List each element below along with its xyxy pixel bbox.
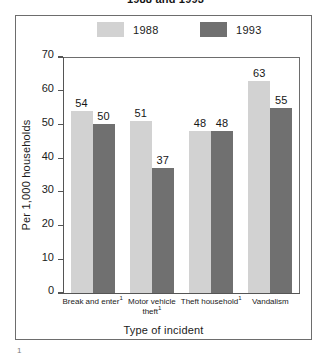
bar-value-label: 48 [194,117,207,129]
bar-group: 5450 [71,57,115,293]
legend-item-1993: 1993 [200,22,262,37]
bar[interactable]: 55 [270,108,292,293]
x-axis-title: Type of incident [15,324,312,336]
bar-value-label: 54 [75,97,88,109]
footnote-marker: 1 [17,346,21,355]
chart-legend: 1988 1993 [15,22,312,44]
x-axis-category-label: Motor vehicle theft1 [118,297,185,317]
legend-item-1988: 1988 [97,22,159,37]
bar[interactable]: 50 [93,124,115,293]
legend-label-1993: 1993 [236,24,262,36]
chart-title: 1988 and 1993 [0,0,331,7]
y-axis-tick-label: 0 [48,284,54,296]
bar-value-label: 63 [253,67,266,79]
y-axis-tick-label: 30 [42,183,54,195]
y-axis-tick: 0 [58,292,63,293]
bar[interactable]: 63 [248,81,270,293]
bar-group: 6355 [248,57,292,293]
legend-label-1988: 1988 [133,24,159,36]
bar-value-label: 51 [135,107,148,119]
y-axis-tick: 40 [58,158,63,159]
y-axis-tick-label: 60 [42,82,54,94]
legend-swatch-1988 [97,22,124,37]
bar[interactable]: 51 [130,121,152,293]
y-axis-tick: 70 [58,56,63,57]
y-axis-title: Per 1,000 households [18,57,34,293]
legend-swatch-1993 [200,22,227,37]
y-axis-tick-label: 20 [42,217,54,229]
x-axis-category-label: Break and enter1 [59,297,126,307]
y-axis-tick-label: 10 [42,251,54,263]
x-axis-category-labels: Break and enter1Motor vehicle theft1Thef… [63,297,300,323]
figure-container: 1988 and 1993 1988 1993 Per 1,000 househ… [0,0,331,359]
y-axis-tick-label: 40 [42,150,54,162]
y-axis-tick-label: 70 [42,48,54,60]
y-axis-tick: 30 [58,191,63,192]
bar-group: 5137 [130,57,174,293]
x-axis-category-label: Theft household1 [178,297,245,307]
x-axis-category-label: Vandalism [237,297,304,307]
y-axis-tick: 60 [58,90,63,91]
bar[interactable]: 48 [211,131,233,293]
bar-value-label: 50 [97,110,110,122]
bar-value-label: 37 [157,154,170,166]
bar[interactable]: 48 [189,131,211,293]
y-axis-tick: 10 [58,259,63,260]
plot-area: 0102030405060705450513748486355 [63,57,300,293]
bar-value-label: 55 [275,94,288,106]
y-axis-title-text: Per 1,000 households [20,119,32,230]
bar[interactable]: 37 [152,168,174,293]
bar[interactable]: 54 [71,111,93,293]
y-axis-tick-label: 50 [42,116,54,128]
bar-value-label: 48 [216,117,229,129]
y-axis-line [63,57,64,293]
x-axis-line [63,293,300,294]
y-axis-tick: 50 [58,124,63,125]
bar-group: 4848 [189,57,233,293]
y-axis-tick: 20 [58,225,63,226]
plot-right-border [299,57,300,293]
